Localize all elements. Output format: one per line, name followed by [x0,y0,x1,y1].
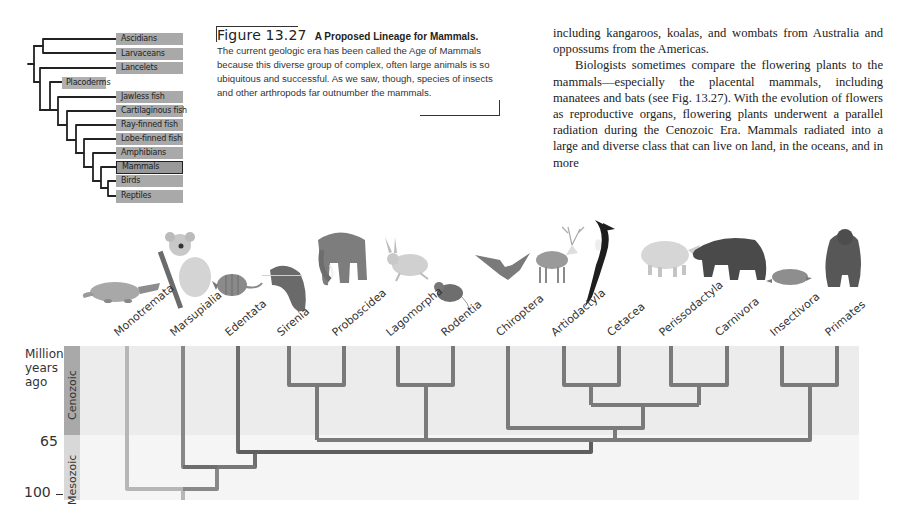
mammal-phylogeny-tree [0,0,897,500]
